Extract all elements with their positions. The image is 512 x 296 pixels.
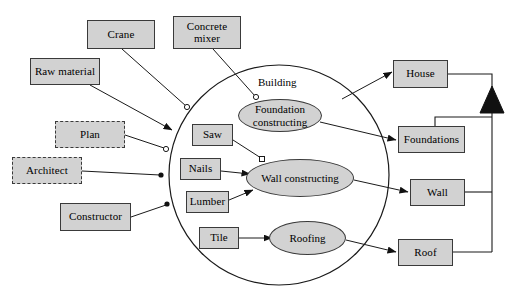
node-tile-label: Tile [208,232,230,244]
node-lumber[interactable]: Lumber [186,191,229,213]
node-concrete-mixer[interactable]: Concrete mixer [173,16,241,49]
node-plan-label: Plan [78,129,102,141]
edge-crane-to-boundary [122,49,186,106]
edge-architect-to-boundary [82,171,160,175]
activity-wall-constructing-label: Wall constructing [261,172,339,184]
node-nails[interactable]: Nails [180,158,221,180]
edge-plan-to-boundary [125,135,164,148]
edge-foundation-constructing-to-foundations [320,122,396,140]
activity-foundation-constructing[interactable]: Foundation constructing [238,99,322,132]
node-raw-material-label: Raw material [33,66,97,78]
node-foundations-label: Foundations [402,134,462,146]
activity-foundation-constructing-label: Foundation constructing [239,103,321,127]
node-house[interactable]: House [393,60,448,88]
edge-roofing-to-roof [346,240,396,252]
endpoint-hollow-saw [260,157,265,162]
node-plan[interactable]: Plan [55,121,125,148]
node-architect[interactable]: Architect [12,157,82,184]
endpoint-filled-constructor [164,201,169,206]
edge-wall-constructing-to-wall [354,180,408,192]
generalization-connector [435,74,492,252]
node-saw-label: Saw [201,129,224,141]
edge-lumber-to-wall-constructing [229,190,253,200]
node-crane-label: Crane [106,29,137,41]
node-wall-label: Wall [425,187,450,199]
node-raw-material[interactable]: Raw material [30,58,100,85]
edge-foundation-constructing-to-house [342,72,392,99]
endpoint-hollow-crane [184,104,189,109]
node-tile[interactable]: Tile [199,227,239,249]
endpoint-hollow-plan [163,146,168,151]
node-roof-label: Roof [412,247,438,259]
edge-saw-to-wall-constructing [233,140,261,158]
node-architect-label: Architect [24,165,70,177]
node-house-label: House [404,68,437,80]
node-constructor-label: Constructor [67,211,124,223]
node-lumber-label: Lumber [188,196,227,208]
edge-concrete-mixer-to-foundation [213,49,255,96]
diagram-canvas: Building Crane Concrete mixer Raw materi… [0,0,512,296]
activity-roofing-label: Roofing [289,232,325,244]
node-saw[interactable]: Saw [192,124,233,146]
system-boundary-label: Building [258,76,297,88]
node-foundations[interactable]: Foundations [398,126,465,153]
endpoint-hollow-concrete-mixer [253,94,258,99]
node-crane[interactable]: Crane [87,20,155,49]
activity-roofing[interactable]: Roofing [269,221,346,255]
endpoint-filled-architect [158,172,163,177]
generalization-triangle [480,86,504,113]
activity-wall-constructing[interactable]: Wall constructing [246,159,354,197]
node-constructor[interactable]: Constructor [60,203,131,231]
edge-constructor-to-boundary [131,205,166,217]
node-nails-label: Nails [187,163,215,175]
node-wall[interactable]: Wall [410,179,465,206]
edge-nails-to-wall-constructing [221,171,250,174]
node-roof[interactable]: Roof [398,239,453,266]
node-concrete-mixer-label: Concrete mixer [174,21,240,44]
